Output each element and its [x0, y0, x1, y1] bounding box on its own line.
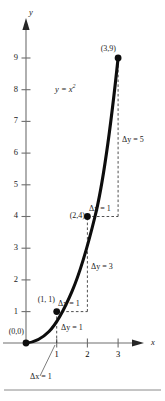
x-tick-label-1: 1 — [55, 349, 59, 359]
y-tick-label-7: 7 — [14, 115, 18, 125]
data-point-2-4 — [84, 213, 91, 220]
data-point-1-1 — [53, 308, 60, 315]
delta-y-second-label: Δy = 3 — [91, 262, 113, 271]
point-label-1-1: (1, 1) — [38, 295, 56, 304]
curve-equation-label: y = x2 — [54, 83, 76, 94]
delta-x-axis-label: Δx = 1 — [30, 372, 52, 381]
y-tick-label-6: 6 — [14, 147, 18, 157]
x-tick-label-2: 2 — [85, 349, 89, 359]
delta-x-first-label: Δx = 1 — [58, 299, 80, 308]
x-tick-label-3: 3 — [116, 349, 120, 359]
delta-y-first-label: Δy = 1 — [61, 323, 83, 332]
y-axis-label: y — [28, 7, 33, 17]
data-point-3-9 — [115, 55, 122, 62]
y-tick-label-8: 8 — [14, 84, 18, 94]
point-label-2-4: (2,4) — [70, 211, 86, 220]
y-tick-label-3: 3 — [14, 242, 18, 252]
data-point-origin — [23, 340, 30, 347]
curve-equation-exponent: 2 — [73, 83, 76, 89]
y-tick-label-5: 5 — [14, 179, 18, 189]
y-tick-label-2: 2 — [14, 274, 18, 284]
delta-x-second-label: Δx = 1 — [89, 204, 111, 213]
quadratic-graph-figure: y 9 8 7 6 5 4 3 2 1 — [0, 0, 165, 401]
y-tick-label-1: 1 — [14, 306, 18, 316]
figure-container: y 9 8 7 6 5 4 3 2 1 — [0, 0, 165, 401]
y-tick-label-9: 9 — [14, 52, 18, 62]
delta-y-third-label: Δy = 5 — [122, 135, 144, 144]
point-label-origin: (0,0) — [9, 327, 25, 336]
x-axis-label: x — [150, 337, 155, 347]
curve-equation-base: y = x — [54, 84, 73, 94]
point-label-3-9: (3,9) — [101, 44, 117, 53]
